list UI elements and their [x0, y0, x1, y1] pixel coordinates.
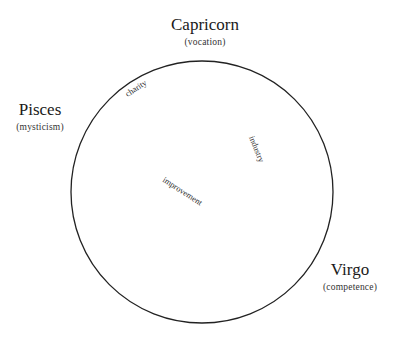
quality-competence: (competence) — [310, 282, 390, 293]
zodiac-circle — [0, 0, 394, 345]
sign-pisces: Pisces — [4, 101, 76, 119]
quality-vocation: (vocation) — [160, 37, 250, 48]
quality-mysticism: (mysticism) — [4, 122, 76, 133]
sign-capricorn: Capricorn — [160, 16, 250, 34]
sign-virgo: Virgo — [314, 261, 386, 279]
